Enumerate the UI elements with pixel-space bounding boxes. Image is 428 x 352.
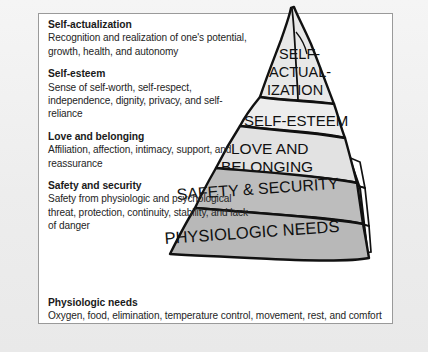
tier-label-self-esteem: SELF-ESTEEM	[244, 112, 348, 129]
need-title: Love and belonging	[48, 130, 253, 143]
tier-label-self-actualization-line2: ACTUAL-	[269, 64, 331, 80]
need-block-love-and-belonging: Love and belonging Affiliation, affectio…	[48, 130, 253, 170]
need-title: Self-esteem	[48, 67, 253, 80]
need-block-physiologic-needs: Physiologic needs Oxygen, food, eliminat…	[48, 296, 383, 323]
need-description: Safety from physiologic and psychologica…	[48, 192, 253, 232]
tier-label-self-actualization-line3: IZATION	[267, 82, 323, 98]
need-description: Recognition and realization of one's pot…	[48, 31, 253, 58]
need-description: Affiliation, affection, intimacy, suppor…	[48, 143, 253, 170]
need-description: Oxygen, food, elimination, temperature c…	[48, 309, 383, 322]
need-title: Safety and security	[48, 179, 253, 192]
need-title: Physiologic needs	[48, 296, 383, 309]
needs-description-list: Self-actualization Recognition and reali…	[48, 18, 253, 242]
need-title: Self-actualization	[48, 18, 253, 31]
tier-label-self-actualization-line1: SELF-	[279, 46, 320, 62]
pyramid-tier-self-actualization: SELF- ACTUAL- IZATION	[260, 7, 334, 104]
need-description: Sense of self-worth, self-respect, indep…	[48, 81, 253, 121]
need-block-self-esteem: Self-esteem Sense of self-worth, self-re…	[48, 67, 253, 121]
need-block-safety-and-security: Safety and security Safety from physiolo…	[48, 179, 253, 233]
need-block-self-actualization: Self-actualization Recognition and reali…	[48, 18, 253, 58]
